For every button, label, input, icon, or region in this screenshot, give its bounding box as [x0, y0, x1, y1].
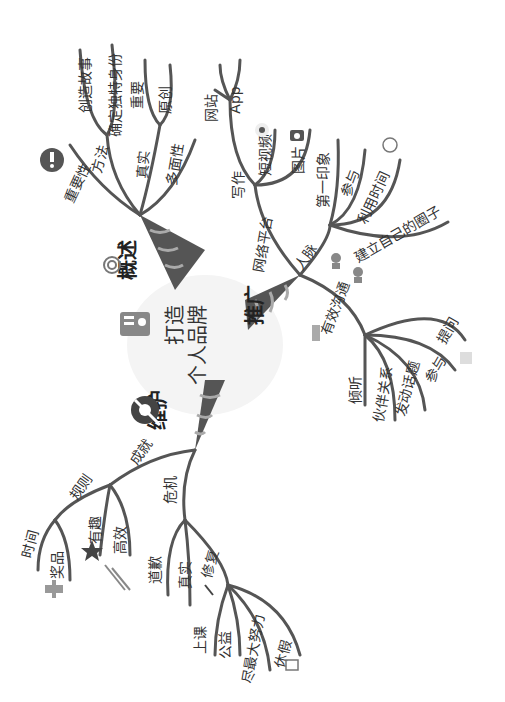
clock-icon	[383, 138, 397, 152]
heart-icon	[255, 123, 269, 137]
node-method: 方法	[89, 143, 112, 174]
node-rules: 规则	[66, 471, 95, 503]
center-title-line2: 个人品牌	[186, 305, 210, 385]
branch-promote-label: 推广	[243, 285, 267, 325]
id-card-icon	[120, 312, 150, 336]
magic-icon	[205, 585, 213, 595]
node-photo: 图片	[290, 146, 306, 174]
node-class: 上课	[192, 626, 208, 654]
node-crisis: 危机	[162, 476, 178, 504]
node-vacation: 休假	[272, 638, 295, 669]
node-authentic: 真实	[134, 150, 152, 179]
node-apology: 道歉	[147, 556, 163, 584]
node-truth: 真实	[177, 561, 193, 589]
center-title-line1: 打造	[163, 305, 187, 345]
node-repair: 修复	[199, 548, 222, 579]
chat-icon	[460, 352, 472, 364]
node-best-effort: 尽最大努力	[239, 613, 267, 685]
node-charity: 公益	[217, 631, 233, 659]
node-start-topic: 发动话题	[392, 360, 422, 418]
node-unique-identity: 确定独特身份	[107, 53, 123, 137]
exclamation-icon	[40, 148, 64, 172]
node-efficient: 高效	[112, 526, 128, 554]
node-create-story: 创造故事	[77, 57, 93, 113]
node-website: 网站	[203, 94, 219, 122]
camera-icon	[290, 130, 304, 141]
node-short-video: 短视频	[257, 134, 273, 176]
arrows-icon	[105, 565, 130, 590]
node-prize: 奖品	[49, 551, 65, 579]
node-network-platform: 网络平台	[250, 215, 275, 273]
trophy-icon	[45, 580, 63, 598]
branch-overview-label: 概述	[116, 240, 140, 280]
phone-icon	[312, 325, 320, 341]
node-achievement: 成就	[126, 436, 155, 468]
node-original: 原创	[157, 86, 173, 114]
node-writing: 写作	[230, 171, 246, 199]
node-listen: 倾听	[347, 376, 363, 404]
node-multifaceted: 多面性	[164, 142, 187, 186]
node-fun: 有趣	[87, 516, 103, 544]
node-app: App	[227, 86, 243, 113]
node-first-impression: 第一印象	[315, 152, 331, 208]
node-important: 重要	[129, 81, 145, 109]
mind-map: 打造 个人品牌 概述 推广 维护	[0, 0, 505, 702]
